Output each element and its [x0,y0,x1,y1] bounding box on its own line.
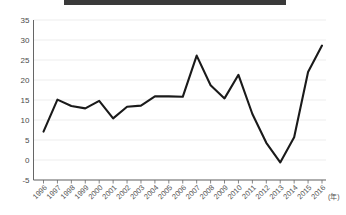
x-axis-unit-label: (年) [328,192,340,201]
x-axis-tickmarks [44,180,323,184]
y-axis-tick-label: 5 [25,136,30,145]
x-axis-tick-label: 2016 [309,183,327,201]
y-axis-tick-label: 10 [21,116,30,125]
y-axis-tick-label: 0 [25,156,30,165]
data-series-line [44,46,323,163]
line-chart: 35302520151050-5 19961997199819992000200… [0,0,346,215]
y-axis-tick-label: 15 [21,96,30,105]
chart-figure: 35302520151050-5 19961997199819992000200… [0,0,346,215]
gridlines [34,20,327,180]
y-axis-tick-label: -5 [22,176,30,185]
y-axis-tick-labels: 35302520151050-5 [21,16,30,185]
y-axis-tick-label: 20 [21,76,30,85]
y-axis-tick-label: 35 [21,16,30,25]
x-axis-tick-labels: 1996199719981999200020012002200320042005… [31,183,328,201]
y-axis-tick-label: 30 [21,36,30,45]
y-axis-tick-label: 25 [21,56,30,65]
